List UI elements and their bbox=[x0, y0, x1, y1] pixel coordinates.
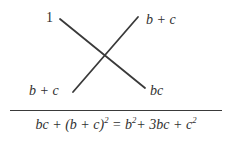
cross-label-bottom-right: bc bbox=[150, 84, 163, 98]
equation-rhs-term-2: 3bc bbox=[149, 117, 169, 132]
result-equation: bc + (b + c)2 = b2+ 3bc + c2 bbox=[0, 117, 232, 133]
equation-plus-2: + bbox=[136, 117, 149, 132]
equation-lhs-term-1: bc bbox=[35, 117, 48, 132]
equation-plus-1: + bbox=[49, 117, 65, 132]
equation-plus-3: + bbox=[169, 117, 185, 132]
cross-diagram: 1 b + c b + c bc bbox=[0, 0, 232, 108]
descending-stroke-line bbox=[60, 19, 145, 88]
cross-label-top-left: 1 bbox=[46, 11, 53, 25]
cross-label-bottom-left: b + c bbox=[29, 84, 59, 98]
ascending-stroke-line bbox=[73, 17, 138, 92]
equation-rhs-term-3-exponent: 2 bbox=[192, 115, 196, 125]
horizontal-divider-rule bbox=[10, 110, 222, 111]
factoring-cross-figure: 1 b + c b + c bc bc + (b + c)2 = b2+ 3bc… bbox=[0, 0, 232, 150]
equation-equals-sign: = bbox=[109, 117, 125, 132]
cross-label-top-right: b + c bbox=[146, 13, 176, 27]
equation-group-body: b + c bbox=[70, 117, 100, 132]
equation-rhs-term-1-base: b bbox=[125, 117, 132, 132]
